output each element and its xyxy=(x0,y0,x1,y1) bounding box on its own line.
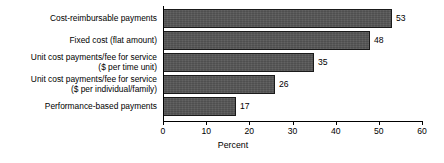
plot-area: 53 48 35 26 17 xyxy=(163,8,422,120)
x-tick-label-20: 20 xyxy=(245,126,255,136)
bar-fixed-cost-flat-amount xyxy=(163,31,370,50)
category-label-fixed-cost-flat-amount: Fixed cost (flat amount) xyxy=(0,36,157,46)
x-tick-label-0: 0 xyxy=(161,126,166,136)
x-tick-label-50: 50 xyxy=(374,126,384,136)
x-axis-title: Percent xyxy=(218,140,248,150)
value-label-performance-based-payments: 17 xyxy=(240,101,250,111)
x-tick-label-30: 30 xyxy=(288,126,298,136)
bar-unit-cost-per-individual-family xyxy=(163,75,275,94)
x-tick-0 xyxy=(163,121,164,125)
x-tick-60 xyxy=(422,121,423,125)
bar-cost-reimbursable-payments xyxy=(163,9,392,28)
value-label-unit-cost-per-time-unit: 35 xyxy=(318,57,328,67)
x-tick-30 xyxy=(293,121,294,125)
value-label-cost-reimbursable-payments: 53 xyxy=(396,13,406,23)
bar-chart: Cost-reimbursable payments Fixed cost (f… xyxy=(0,0,444,163)
category-label-cost-reimbursable-payments: Cost-reimbursable payments xyxy=(0,14,157,24)
category-axis-labels: Cost-reimbursable payments Fixed cost (f… xyxy=(0,8,161,120)
category-label-unit-cost-per-time-unit: Unit cost payments/fee for service ($ pe… xyxy=(0,53,157,72)
x-tick-label-10: 10 xyxy=(201,126,211,136)
value-label-unit-cost-per-individual-family: 26 xyxy=(279,79,289,89)
x-tick-10 xyxy=(206,121,207,125)
x-tick-20 xyxy=(249,121,250,125)
category-label-performance-based-payments: Performance-based payments xyxy=(0,102,157,112)
bar-unit-cost-per-time-unit xyxy=(163,53,314,72)
y-axis-line xyxy=(163,6,164,122)
value-label-fixed-cost-flat-amount: 48 xyxy=(374,35,384,45)
x-axis-title-wrapper: Percent xyxy=(0,140,444,150)
bar-performance-based-payments xyxy=(163,97,236,116)
x-tick-50 xyxy=(379,121,380,125)
x-tick-label-60: 60 xyxy=(417,126,427,136)
x-tick-40 xyxy=(336,121,337,125)
category-label-unit-cost-per-individual-family: Unit cost payments/fee for service ($ pe… xyxy=(0,75,157,94)
x-tick-label-40: 40 xyxy=(331,126,341,136)
